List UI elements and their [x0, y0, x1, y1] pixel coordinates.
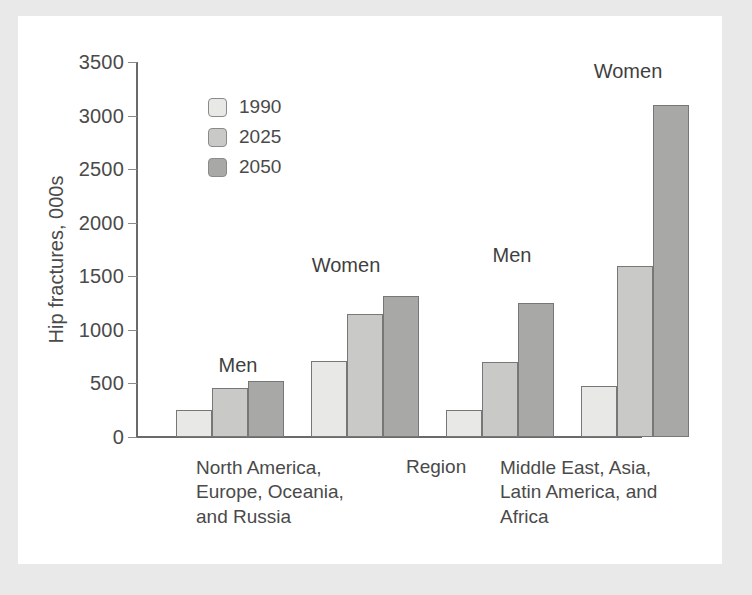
group-label-men-region1: Men: [168, 354, 308, 377]
y-tick-mark: [128, 437, 137, 438]
legend-item-1990: 1990: [208, 94, 338, 120]
bar-1990-women-region2: [581, 386, 617, 437]
category-label-region1: North America, Europe, Oceania, and Russ…: [196, 456, 386, 529]
y-axis-title: Hip fractures, 000s: [45, 110, 68, 410]
legend-swatch-2050: [208, 158, 227, 177]
bar-2025-women-region1: [347, 314, 383, 437]
bar-1990-men-region1: [176, 410, 212, 437]
bar-2025-women-region2: [617, 266, 653, 437]
legend-swatch-2025: [208, 128, 227, 147]
bar-2025-men-region1: [212, 388, 248, 437]
legend-label-2025: 2025: [239, 126, 281, 148]
bar-2050-women-region1: [383, 296, 419, 437]
figure-frame: Hip fractures, 000s 05001000150020002500…: [0, 0, 752, 595]
y-tick-label: 1500: [62, 266, 124, 286]
y-tick-label: 3500: [62, 52, 124, 72]
legend-label-1990: 1990: [239, 96, 281, 118]
y-tick-label: 3000: [62, 106, 124, 126]
category-label-region2: Middle East, Asia, Latin America, and Af…: [500, 456, 710, 529]
legend-label-2050: 2050: [239, 156, 281, 178]
bar-2050-men-region2: [518, 303, 554, 437]
y-tick-label: 2000: [62, 213, 124, 233]
legend: 1990 2025 2050: [208, 94, 338, 184]
legend-swatch-1990: [208, 98, 227, 117]
group-label-women-region1: Women: [276, 254, 416, 277]
y-tick-label: 500: [62, 373, 124, 393]
legend-item-2025: 2025: [208, 124, 338, 150]
legend-item-2050: 2050: [208, 154, 338, 180]
bar-2025-men-region2: [482, 362, 518, 437]
group-label-men-region2: Men: [442, 244, 582, 267]
bar-2050-women-region2: [653, 105, 689, 437]
bar-2050-men-region1: [248, 381, 284, 437]
y-tick-label: 1000: [62, 320, 124, 340]
bar-1990-women-region1: [311, 361, 347, 437]
chart-panel: Hip fractures, 000s 05001000150020002500…: [18, 16, 722, 564]
y-tick-label: 2500: [62, 159, 124, 179]
plot-area: Hip fractures, 000s 05001000150020002500…: [18, 16, 722, 564]
x-axis-title: Region: [406, 456, 466, 478]
y-tick-label: 0: [62, 427, 124, 447]
bar-1990-men-region2: [446, 410, 482, 437]
group-label-women-region2: Women: [558, 60, 698, 83]
